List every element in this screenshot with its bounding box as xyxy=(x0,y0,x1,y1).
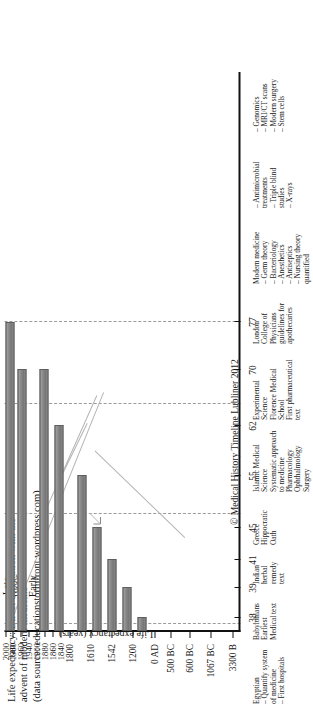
annotation-islamic-l7: Surgery xyxy=(302,431,310,492)
annotation-islamic: Islamic Medical Science Systematic appro… xyxy=(252,431,310,492)
annotation-indian-l2: herbal xyxy=(260,562,268,584)
figure-frame: Life expectancy: Direct correlation with… xyxy=(0,0,313,708)
annotation-area: Egyptian – Quantify system of medicine –… xyxy=(252,2,312,632)
annotation-early1900-l5: – X-rays xyxy=(285,161,293,208)
bar-2000 xyxy=(5,322,14,631)
x-tick-1610 xyxy=(90,632,91,638)
x-tick-500bc xyxy=(170,632,171,638)
annotation-london-l5: apothecaries xyxy=(285,303,293,344)
bar-1860 xyxy=(107,559,116,631)
bar-1840 xyxy=(122,587,131,631)
y-tick-77 xyxy=(234,321,240,322)
annotation-early1900-l2: treatments xyxy=(260,161,268,208)
annotation-indian-l4: text xyxy=(277,562,285,584)
bar-1940 xyxy=(54,425,63,631)
annotation-egyptian-l4: – First hospitals xyxy=(277,650,285,704)
annotation-babylonians: Babylonians Earliest Medical text xyxy=(252,603,277,640)
y-tick-62 xyxy=(234,425,240,426)
x-tick-label-0ad: 0 AD xyxy=(149,644,159,664)
x-tick-1900 xyxy=(36,632,37,637)
x-tick-label-3300b: 3300 B xyxy=(227,644,237,671)
gridline-77 xyxy=(4,321,240,322)
bar-1880 xyxy=(92,527,101,631)
annotation-london-college: London College of Physicians guidelines … xyxy=(252,303,293,344)
x-tick-label-600bc: 600 BC xyxy=(184,644,194,673)
x-tick-0ad xyxy=(154,632,155,638)
y-tick-45 xyxy=(234,527,240,528)
y-tick-39 xyxy=(234,587,240,588)
x-tick-1200 xyxy=(132,632,133,638)
x-tick-1860 xyxy=(52,632,53,637)
bar-1900 xyxy=(77,475,86,631)
y-tick-38 xyxy=(234,617,240,618)
annotation-babylonians-l2: Earliest xyxy=(260,603,268,640)
annotation-early-1900s: – Antimicrobial treatments – Triple blin… xyxy=(252,161,293,208)
x-tick-1800 xyxy=(69,632,70,638)
y-tick-70 xyxy=(234,369,240,370)
x-tick-label-1200: 1200 xyxy=(127,644,137,663)
arrow-icon xyxy=(88,512,102,526)
x-tick-600bc xyxy=(189,632,190,638)
annotation-greece-l2: Hippocratic xyxy=(260,510,268,545)
annotation-greece: Greece Hippocratic Oath xyxy=(252,510,277,545)
x-tick-1067bc xyxy=(210,632,211,638)
annotation-modern-l2: – Germ theory xyxy=(260,232,268,284)
annotation-babylonians-l3: Medical text xyxy=(269,603,277,640)
y-tick-41 xyxy=(234,559,240,560)
x-tick-1880 xyxy=(44,632,45,637)
annotation-late1900-l4: – Stem cells xyxy=(277,79,285,132)
x-tick-1542 xyxy=(111,632,112,638)
x-tick-label-1542: 1542 xyxy=(106,644,116,663)
annotation-experimental-science: Experimental Science Florence Medical Sc… xyxy=(252,359,302,420)
bar-1980 xyxy=(17,369,26,631)
x-tick-label-1610: 1610 xyxy=(85,644,95,663)
annotation-experimental-l2: Science xyxy=(260,359,268,420)
plot-area: Life expectancy (years) 77 70 62 55 45 4… xyxy=(4,72,240,632)
annotation-greece-l3: Oath xyxy=(269,510,277,545)
annotation-islamic-l2: Science xyxy=(260,431,268,492)
annotation-modern-l7: quantified xyxy=(302,232,310,284)
annotation-london-l2: College of xyxy=(260,303,268,344)
annotation-indian: Indian herbal remedy text xyxy=(252,562,285,584)
bar-1960 xyxy=(39,369,48,631)
x-tick-label-1800: 1800 xyxy=(64,644,74,663)
annotation-late-1900s: – Genomics – MRI/CT scans – Modern surge… xyxy=(252,79,285,132)
annotation-egyptian: Egyptian – Quantify system of medicine –… xyxy=(252,650,285,704)
leader-line-3 xyxy=(60,423,87,477)
x-tick-1840 xyxy=(60,632,61,637)
annotation-egyptian-l2: – Quantify system xyxy=(260,650,268,704)
annotation-late1900-l2: – MRI/CT scans xyxy=(260,79,268,132)
y-axis-title: Life expectancy (years) xyxy=(46,629,166,640)
rotated-figure: Life expectancy: Direct correlation with… xyxy=(0,0,313,708)
x-tick-1980 xyxy=(12,632,13,637)
leader-line-4 xyxy=(94,450,185,538)
x-tick-3300b xyxy=(232,632,233,638)
x-tick-label-1067bc: 1067 BC xyxy=(205,644,215,677)
x-tick-1960 xyxy=(20,632,21,637)
annotation-experimental-l6: text xyxy=(293,359,301,420)
x-axis-line xyxy=(238,72,240,632)
x-tick-label-2000: 2000 xyxy=(0,643,10,660)
x-tick-1940 xyxy=(28,632,29,637)
annotation-modern-medicine: Modern medicine – Germ theory – Bacterio… xyxy=(252,232,310,284)
bar-1800 xyxy=(137,617,146,631)
y-tick-55 xyxy=(234,475,240,476)
x-tick-2000 xyxy=(5,632,6,637)
x-tick-label-500bc: 500 BC xyxy=(165,644,175,673)
